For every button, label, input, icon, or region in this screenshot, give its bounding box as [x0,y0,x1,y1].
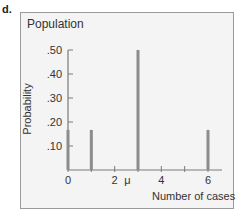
bar [67,130,70,170]
y-tick-label: .20 [47,116,62,128]
y-tick-label: .10 [47,140,62,152]
x-tick-label: 6 [205,174,211,186]
y-tick-label: .30 [47,92,62,104]
x-tick-label: 2 [112,174,118,186]
bars [67,50,210,170]
mean-annotation: μ [124,174,130,186]
bar [90,130,93,170]
x-tick-label: 4 [158,174,164,186]
y-tick-label: .50 [47,44,62,56]
bar [137,50,140,170]
bar [207,130,210,170]
x-tick-label: 0 [65,174,71,186]
chart-plot: .10.20.30.40.50 0246μ [0,0,244,213]
y-tick-label: .40 [47,68,62,80]
